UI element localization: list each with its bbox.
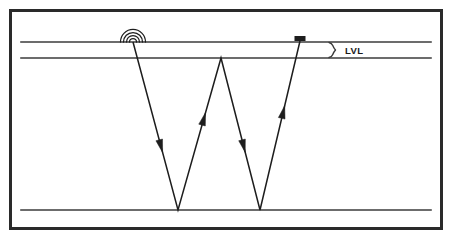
figure-border: [11, 11, 442, 229]
arrow-down-leg-3: [239, 139, 246, 152]
seismic-raypath-figure: LVL: [0, 0, 453, 241]
layer-lines-group: [21, 42, 431, 210]
seismic-source-icon: [121, 29, 146, 42]
geophone-receiver-icon: [295, 36, 306, 41]
w-shaped-raypath: [133, 41, 300, 210]
raypath-arrowheads-group: [156, 106, 285, 153]
arrow-up-leg-4: [278, 106, 285, 119]
lvl-label: LVL: [345, 45, 363, 56]
arrow-up-leg-2: [199, 113, 206, 126]
lvl-brace-icon: [329, 43, 336, 58]
arrow-down-leg-1: [156, 139, 163, 152]
raypath-group: [133, 41, 300, 210]
figure-canvas: LVL: [0, 0, 453, 241]
